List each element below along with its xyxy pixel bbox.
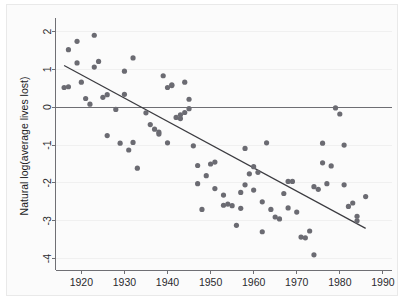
data-point (169, 82, 174, 87)
scatter-plot: 19201930194019501960197019801990210-1-2-… (0, 0, 404, 306)
data-point (96, 59, 101, 64)
y-tick-label: -3 (42, 216, 54, 225)
data-point (186, 106, 191, 111)
data-point (113, 107, 118, 112)
data-point (87, 102, 92, 107)
data-point (363, 194, 368, 199)
data-point (191, 143, 196, 148)
x-tick-label: 1980 (328, 276, 352, 288)
data-point (186, 97, 191, 102)
data-point (105, 133, 110, 138)
data-point (165, 140, 170, 145)
y-tick-label: -2 (42, 178, 54, 187)
data-point (342, 182, 347, 187)
data-point (182, 110, 187, 115)
data-point (66, 47, 71, 52)
data-point (281, 191, 286, 196)
data-point (311, 184, 316, 189)
data-point (329, 163, 334, 168)
data-point (148, 122, 153, 127)
data-point (354, 218, 359, 223)
data-point (212, 159, 217, 164)
data-point (251, 188, 256, 193)
data-point (130, 55, 135, 60)
data-point (354, 214, 359, 219)
data-point (268, 207, 273, 212)
data-point (79, 80, 84, 85)
data-point (212, 186, 217, 191)
data-point (260, 199, 265, 204)
data-point (290, 179, 295, 184)
data-point (307, 228, 312, 233)
data-point (286, 205, 291, 210)
x-tick-label: 1950 (199, 276, 223, 288)
data-point (156, 131, 161, 136)
data-point (320, 141, 325, 146)
data-point (242, 146, 247, 151)
data-point (143, 110, 148, 115)
linear-fit-line (64, 66, 366, 229)
y-tick-label: -1 (42, 140, 54, 149)
data-point (277, 216, 282, 221)
data-point (195, 181, 200, 186)
data-point (337, 111, 342, 116)
data-point (62, 85, 67, 90)
data-point (238, 190, 243, 195)
data-point (74, 39, 79, 44)
y-tick-label: 0 (42, 104, 54, 110)
data-point (100, 95, 105, 100)
data-point (333, 105, 338, 110)
x-tick-label: 1990 (371, 276, 395, 288)
data-point (118, 141, 123, 146)
data-point (221, 192, 226, 197)
data-point (234, 223, 239, 228)
data-point (204, 173, 209, 178)
data-point (320, 160, 325, 165)
data-point (122, 92, 127, 97)
data-point (298, 234, 303, 239)
data-point (126, 147, 131, 152)
x-tick-label: 1930 (113, 276, 137, 288)
chart-figure: 19201930194019501960197019801990210-1-2-… (0, 0, 404, 306)
data-point (311, 252, 316, 257)
data-point (182, 80, 187, 85)
data-point (135, 166, 140, 171)
data-point (152, 127, 157, 132)
data-point (303, 235, 308, 240)
y-tick-label: -4 (42, 254, 54, 263)
data-point (324, 181, 329, 186)
data-point (242, 182, 247, 187)
y-tick-label: 1 (42, 66, 54, 72)
data-point (251, 164, 256, 169)
data-point (264, 140, 269, 145)
data-point (342, 142, 347, 147)
y-axis-title: Natural log(average lives lost) (18, 77, 30, 216)
data-point (105, 92, 110, 97)
data-point (74, 60, 79, 65)
data-point (83, 96, 88, 101)
data-point (230, 203, 235, 208)
data-point (255, 170, 260, 175)
data-point (161, 73, 166, 78)
data-point (92, 33, 97, 38)
x-tick-label: 1970 (285, 276, 309, 288)
x-tick-label: 1960 (242, 276, 266, 288)
data-point (130, 140, 135, 145)
data-point (66, 84, 71, 89)
data-point (247, 171, 252, 176)
data-point (350, 200, 355, 205)
data-point (92, 64, 97, 69)
data-point (316, 187, 321, 192)
x-tick-label: 1920 (70, 276, 94, 288)
data-point (238, 206, 243, 211)
data-point (122, 69, 127, 74)
data-point (199, 207, 204, 212)
y-tick-label: 2 (42, 28, 54, 34)
data-point (294, 209, 299, 214)
x-tick-label: 1940 (156, 276, 180, 288)
data-point (346, 204, 351, 209)
data-point (260, 229, 265, 234)
data-point (195, 163, 200, 168)
